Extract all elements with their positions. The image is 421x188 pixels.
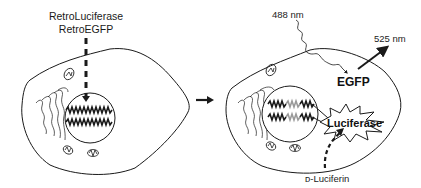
left-cell [22, 38, 189, 174]
retro-egfp-label: RetroEGFP [59, 24, 113, 35]
emission-wavelength-label: 525 nm [374, 34, 406, 44]
egfp-label: EGFP [337, 76, 370, 88]
excitation-wavelength-label: 488 nm [272, 10, 304, 20]
excitation-wave-icon [296, 20, 347, 73]
diagram-canvas: RetroLuciferase RetroEGFP 488 nm 525 nm … [0, 0, 421, 188]
d-luciferin-label: ᴅ-Luciferin [305, 174, 349, 184]
retro-luciferase-label: RetroLuciferase [49, 11, 123, 22]
emission-arrow-icon [358, 48, 386, 69]
transition-arrow-icon [196, 96, 214, 104]
left-golgi-icon [36, 88, 68, 140]
luciferase-label: Luciferase [327, 118, 382, 129]
